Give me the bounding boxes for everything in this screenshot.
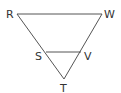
triangle-diagram: R W S V T bbox=[0, 0, 121, 93]
label-r: R bbox=[6, 8, 14, 21]
segment-rt bbox=[17, 14, 64, 79]
label-t: T bbox=[59, 82, 67, 93]
label-s: S bbox=[35, 50, 42, 63]
label-v: V bbox=[84, 50, 92, 63]
segment-wt bbox=[64, 14, 102, 79]
label-w: W bbox=[104, 8, 115, 21]
